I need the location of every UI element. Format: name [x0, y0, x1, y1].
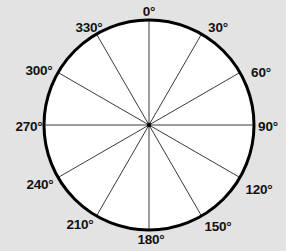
angle-label-330: 330° [75, 21, 102, 35]
compass-circle-graphic [0, 0, 286, 251]
angle-label-120: 120° [245, 183, 272, 197]
angle-label-270: 270° [15, 120, 42, 134]
angle-label-240: 240° [26, 178, 53, 192]
angle-label-210: 210° [66, 218, 93, 232]
center-point [147, 123, 151, 127]
angle-label-150: 150° [204, 220, 231, 234]
angle-label-60: 60° [251, 66, 271, 80]
angle-label-300: 300° [25, 64, 52, 78]
angle-label-30: 30° [208, 21, 228, 35]
angle-label-180: 180° [137, 233, 164, 247]
compass-rose-diagram: 0°30°60°90°120°150°180°210°240°270°300°3… [0, 0, 286, 251]
angle-label-90: 90° [258, 120, 278, 134]
angle-label-0: 0° [143, 5, 156, 19]
